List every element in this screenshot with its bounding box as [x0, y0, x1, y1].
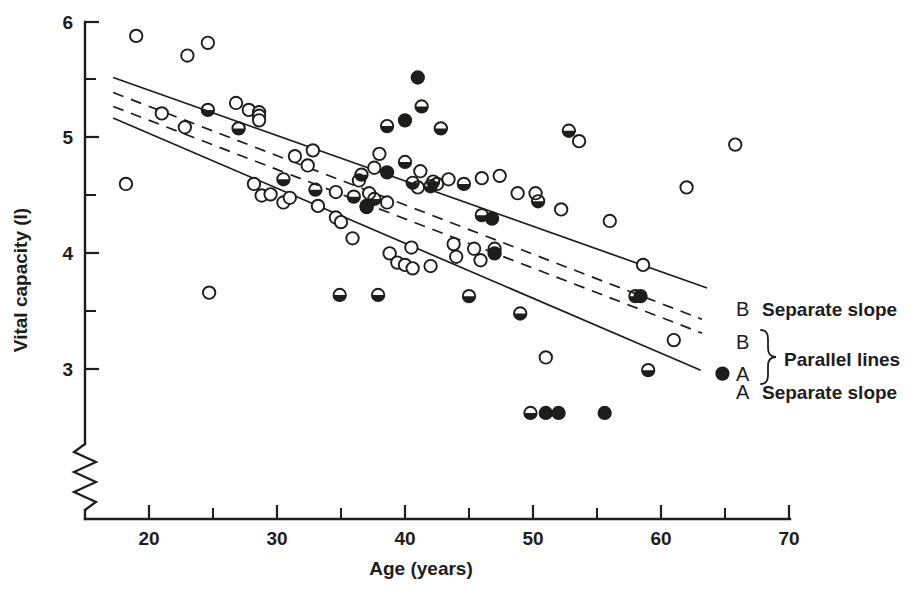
data-point-half	[563, 125, 575, 137]
data-point-half	[406, 177, 418, 189]
data-point-filled	[412, 71, 424, 83]
y-tick-label-4: 4	[62, 243, 73, 264]
data-point-open	[405, 241, 417, 253]
data-point-filled	[360, 200, 372, 212]
y-axis	[74, 22, 96, 519]
data-points	[120, 30, 742, 419]
x-tick-label-70: 70	[778, 528, 799, 549]
scatter-plot: 6 5 4 3 20 30 40 50 60 70 Age (years) Vi…	[0, 0, 913, 590]
data-point-half	[202, 104, 214, 116]
data-point-half	[399, 156, 411, 168]
data-point-open	[555, 203, 567, 215]
legend: B Separate slope B A Parallel lines A Se…	[736, 298, 900, 403]
data-point-open	[181, 49, 193, 61]
data-point-half	[415, 100, 427, 112]
data-point-open	[381, 196, 393, 208]
data-point-open	[442, 173, 454, 185]
data-point-open	[406, 262, 418, 274]
data-point-open	[668, 334, 680, 346]
data-point-filled	[381, 166, 393, 178]
data-point-half	[381, 120, 393, 132]
data-point-open	[230, 97, 242, 109]
data-point-open	[680, 181, 692, 193]
y-axis-break-zigzag	[74, 444, 96, 510]
data-point-half	[642, 364, 654, 376]
legend-code-b-separate: B	[736, 298, 749, 320]
data-point-open	[130, 30, 142, 42]
data-point-open	[253, 114, 265, 126]
data-point-half	[372, 289, 384, 301]
data-point-open	[604, 215, 616, 227]
data-point-open	[414, 165, 426, 177]
data-point-open	[529, 187, 541, 199]
data-point-half	[309, 184, 321, 196]
data-point-filled	[552, 407, 564, 419]
data-point-half	[277, 173, 289, 185]
data-point-open	[637, 259, 649, 271]
x-axis-ticks	[149, 505, 789, 519]
data-point-open	[729, 138, 741, 150]
data-point-half	[435, 122, 447, 134]
data-point-half	[463, 290, 475, 302]
data-point-open	[476, 172, 488, 184]
legend-label-b-separate: Separate slope	[762, 299, 897, 320]
data-point-open	[202, 37, 214, 49]
data-point-open	[203, 286, 215, 298]
data-point-open	[450, 251, 462, 263]
data-point-open	[289, 150, 301, 162]
data-point-open	[511, 187, 523, 199]
x-tick-label-40: 40	[394, 528, 415, 549]
data-point-open	[307, 144, 319, 156]
data-point-open	[248, 178, 260, 190]
legend-code-a-separate: A	[736, 381, 750, 403]
x-tick-label-50: 50	[522, 528, 543, 549]
data-point-filled	[488, 247, 500, 259]
data-point-open	[120, 178, 132, 190]
data-point-open	[264, 188, 276, 200]
y-tick-labels: 6 5 4 3	[62, 12, 73, 380]
y-axis-ticks	[85, 22, 99, 369]
data-point-open	[368, 162, 380, 174]
legend-brace	[761, 330, 776, 384]
x-tick-label-60: 60	[650, 528, 671, 549]
data-point-half	[427, 175, 439, 187]
legend-group-label: Parallel lines	[784, 349, 900, 370]
data-point-open	[179, 121, 191, 133]
data-point-filled	[486, 212, 498, 224]
data-point-open	[447, 238, 459, 250]
data-point-half	[355, 168, 367, 180]
data-point-open	[474, 254, 486, 266]
data-point-open	[424, 260, 436, 272]
y-tick-label-5: 5	[62, 127, 73, 148]
x-axis-title: Age (years)	[369, 558, 473, 579]
legend-code-b-parallel: B	[736, 331, 749, 353]
data-point-open	[573, 135, 585, 147]
x-tick-label-30: 30	[266, 528, 287, 549]
data-point-open	[156, 107, 168, 119]
data-point-half	[348, 190, 360, 202]
x-tick-label-20: 20	[138, 528, 159, 549]
data-point-open	[302, 159, 314, 171]
data-point-half	[524, 407, 536, 419]
figure-container: 6 5 4 3 20 30 40 50 60 70 Age (years) Vi…	[0, 0, 913, 590]
data-point-open	[346, 232, 358, 244]
data-point-open	[335, 216, 347, 228]
data-point-filled	[716, 367, 728, 379]
data-point-open	[494, 170, 506, 182]
data-point-filled	[598, 407, 610, 419]
legend-label-a-separate: Separate slope	[762, 382, 897, 403]
x-tick-labels: 20 30 40 50 60 70	[138, 528, 799, 549]
data-point-open	[312, 200, 324, 212]
y-tick-label-6: 6	[62, 12, 73, 33]
data-point-filled	[634, 290, 646, 302]
data-point-half	[514, 307, 526, 319]
data-point-open	[540, 351, 552, 363]
data-point-open	[468, 243, 480, 255]
y-tick-label-3: 3	[62, 359, 73, 380]
data-point-filled	[399, 114, 411, 126]
data-point-open	[284, 192, 296, 204]
y-axis-title: Vital capacity (l)	[10, 208, 31, 352]
data-point-half	[232, 122, 244, 134]
data-point-filled	[540, 407, 552, 419]
data-point-half	[334, 289, 346, 301]
